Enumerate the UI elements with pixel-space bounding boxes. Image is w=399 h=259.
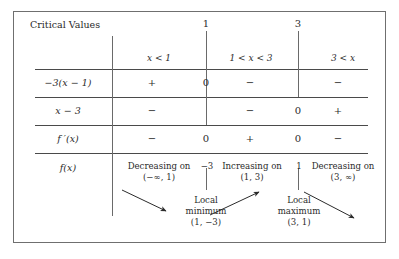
row-3-sign-3: + [242, 133, 258, 144]
row-2-sign-2: − [242, 105, 258, 116]
local-maximum-callout: Local maximum (3, 1) [262, 195, 336, 228]
interval-header-2: 1 < x < 3 [220, 53, 282, 63]
local-minimum-line-2: minimum [185, 206, 226, 216]
row-2-sign-4: + [330, 105, 346, 116]
row-label-derivative: f ′(x) [30, 133, 106, 144]
local-minimum-point: (1, −3) [191, 217, 221, 227]
behavior-3-line-1: Decreasing on [312, 161, 375, 171]
row-1-sign-4: − [330, 77, 346, 88]
behavior-2-line-1: Increasing on [222, 161, 282, 171]
critical-value-1: 1 [198, 18, 214, 29]
local-minimum-line-1: Local [194, 195, 218, 205]
behavior-2-line-2: (1, 3) [240, 172, 263, 182]
local-maximum-point: (3, 1) [287, 217, 310, 227]
row-3-sign-2: 0 [198, 133, 214, 144]
rule-below-interval-headers [35, 69, 368, 70]
row-label-function: f(x) [30, 162, 106, 173]
sign-chart-table: Critical Values 1 3 x < 1 1 < x < 3 3 < … [13, 11, 386, 243]
critical-values-title: Critical Values [30, 19, 100, 30]
row-1-sign-1: + [144, 77, 160, 88]
rule-below-row-1 [35, 97, 368, 98]
tick-label-1: 1 [291, 161, 307, 171]
behavior-1-line-1: Decreasing on [128, 161, 191, 171]
critical-tick-1 [298, 168, 299, 190]
row-3-sign-4: 0 [290, 133, 306, 144]
behavior-1-line-2: (−∞, 1) [143, 172, 175, 182]
critical-tick-minus3 [206, 168, 207, 190]
row-1-sign-3: − [242, 77, 258, 88]
local-minimum-callout: Local minimum (1, −3) [169, 195, 243, 228]
local-maximum-line-1: Local [287, 195, 311, 205]
critical-value-3: 3 [290, 18, 306, 29]
rule-below-row-2 [35, 125, 368, 126]
row-2-sign-1: − [144, 105, 160, 116]
rule-below-row-3 [35, 153, 368, 154]
local-maximum-line-2: maximum [278, 206, 321, 216]
critical-line-3-upper [298, 31, 299, 97]
row-label-factor-1: −3(x − 1) [30, 77, 106, 88]
critical-line-1-mid [206, 97, 207, 125]
tick-label-minus-3: −3 [199, 161, 215, 171]
interval-header-3: 3 < x [312, 53, 374, 63]
behavior-3: Decreasing on (3, ∞) [304, 161, 382, 182]
behavior-1: Decreasing on (−∞, 1) [118, 161, 200, 182]
row-label-factor-2: x − 3 [30, 105, 106, 116]
row-1-sign-2: 0 [198, 77, 214, 88]
row-2-sign-3: 0 [290, 105, 306, 116]
row-3-sign-1: − [144, 133, 160, 144]
interval-header-1: x < 1 [128, 53, 190, 63]
row-3-sign-5: − [330, 133, 346, 144]
behavior-2: Increasing on (1, 3) [214, 161, 290, 182]
arrow-decreasing-to-minimum [122, 190, 166, 211]
divider-label-column [112, 36, 113, 216]
behavior-3-line-2: (3, ∞) [331, 172, 356, 182]
